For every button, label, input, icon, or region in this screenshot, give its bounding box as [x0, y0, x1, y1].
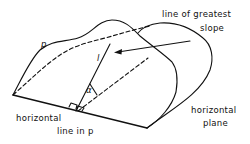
label-line-of-greatest-slope-2: slope	[200, 23, 224, 33]
label-horizontal-plane-1: horizontal	[191, 105, 236, 115]
label-l: l	[97, 53, 100, 63]
label-p: p	[40, 39, 47, 49]
slope-diagram: p l α line of greatest slope horizontal …	[0, 0, 250, 144]
label-line-of-greatest-slope-1: line of greatest	[162, 9, 232, 19]
label-horizontal-line-2: line in p	[57, 126, 94, 136]
pointer-arrowhead-icon	[114, 49, 122, 55]
pointer-arrow-line	[118, 41, 190, 52]
label-horizontal-plane-2: plane	[203, 118, 228, 128]
label-horizontal-line-1: horizontal	[16, 113, 61, 123]
right-angle-mark-left	[69, 103, 77, 109]
label-alpha: α	[86, 85, 92, 95]
horizontal-line-in-p	[13, 95, 147, 128]
line-l	[76, 44, 110, 111]
